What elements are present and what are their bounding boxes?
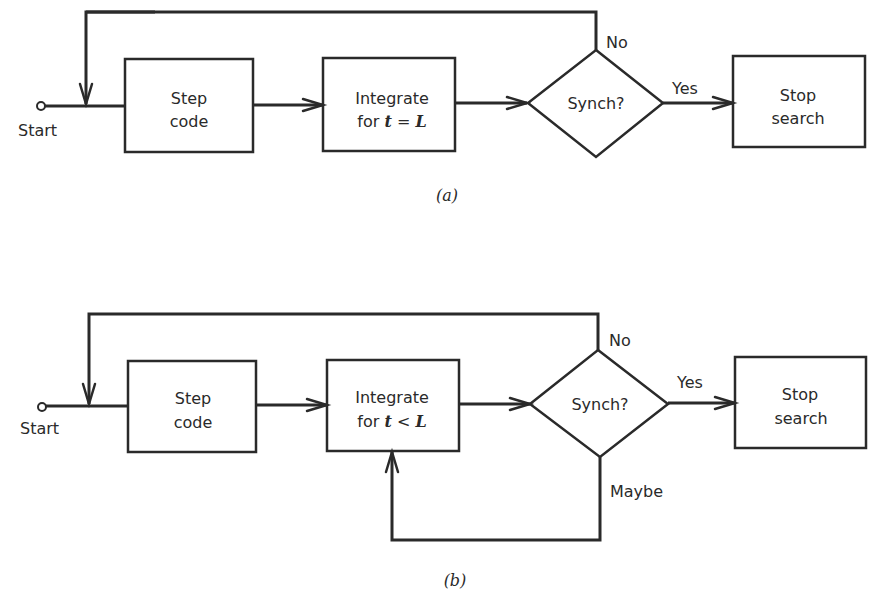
integrate-prefix-b: for [357,412,384,431]
step-code-line1-b: Step [175,389,211,408]
start-terminal-b [38,403,46,411]
decision-label-a: Synch? [567,94,624,113]
start-label-b: Start [20,419,59,438]
integrate-prefix-a: for [357,112,384,131]
step-code-line2-a: code [170,112,209,131]
decision-label-b: Synch? [571,395,628,414]
op-b: < [392,412,416,431]
no-loop-top-a [86,12,596,50]
stop-line2-b: search [774,409,827,428]
var-L-b: L [414,412,426,431]
start-label-a: Start [18,121,57,140]
no-label-a: No [606,33,628,52]
integrate-line2-b: for t < L [357,412,426,431]
diagram-b: Start Step code Integrate for t < L Sync… [20,314,866,590]
yes-label-b: Yes [676,373,703,392]
maybe-loop-line-b [392,452,600,540]
yes-label-a: Yes [671,79,698,98]
integrate-line1-a: Integrate [355,89,429,108]
start-terminal-a [37,102,45,110]
caption-b: (b) [444,571,467,590]
no-label-b: No [609,331,631,350]
op-a: = [392,112,416,131]
maybe-label-b: Maybe [610,482,663,501]
stop-line1-a: Stop [780,86,816,105]
stop-line1-b: Stop [782,385,818,404]
flowchart-canvas: Start Step code Integrate for t = L Sync… [0,0,891,607]
step-code-line1-a: Step [171,89,207,108]
integrate-line2-a: for t = L [357,112,426,131]
caption-a: (a) [436,186,458,205]
step-code-line2-b: code [174,413,213,432]
stop-line2-a: search [771,109,824,128]
integrate-line1-b: Integrate [355,388,429,407]
var-L-a: L [414,112,426,131]
diagram-a: Start Step code Integrate for t = L Sync… [18,12,865,205]
